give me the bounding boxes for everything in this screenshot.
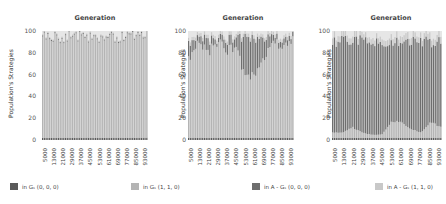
- y-tick: 40: [172, 92, 186, 99]
- x-tick: 85000: [279, 148, 285, 172]
- y-tick: 80: [172, 49, 186, 56]
- chart-panel-3: Generation Population's Strategies 100 8…: [296, 0, 444, 178]
- x-tick: 69000: [115, 148, 121, 172]
- legend-label: in A - Gₛ (0, 0, 0): [264, 184, 310, 190]
- x-tick: 5000: [42, 148, 48, 172]
- plot-area: [42, 31, 148, 140]
- x-tick: 45000: [233, 148, 239, 172]
- legend-label: in Gₛ (0, 0, 0): [22, 184, 59, 190]
- legend-swatch: [252, 183, 260, 190]
- x-tick: 37000: [224, 148, 230, 172]
- legend-label: in A - Gₛ (1, 1, 0): [387, 184, 433, 190]
- y-tick: 80: [316, 49, 330, 56]
- x-tick: 5000: [188, 148, 194, 172]
- x-tick: 29000: [69, 148, 75, 172]
- y-tick: 0: [22, 136, 36, 143]
- legend-swatch: [131, 183, 139, 190]
- x-tick: 93000: [436, 148, 442, 172]
- legend: in Gₛ (0, 0, 0) in Gₛ (1, 1, 0) in A - G…: [0, 183, 446, 197]
- x-tick: 21000: [206, 148, 212, 172]
- y-tick: 100: [22, 27, 36, 34]
- legend-label: in Gₛ (1, 1, 0): [143, 184, 180, 190]
- x-tick: 29000: [360, 148, 366, 172]
- y-tick: 20: [316, 114, 330, 121]
- legend-item: in Gₛ (0, 0, 0): [10, 183, 59, 190]
- y-tick: 80: [22, 49, 36, 56]
- x-tick: 29000: [215, 148, 221, 172]
- chart-title: Generation: [40, 14, 150, 22]
- chart-title: Generation: [336, 14, 446, 22]
- chart-title: Generation: [188, 14, 298, 22]
- x-tick: 85000: [427, 148, 433, 172]
- x-tick: 13000: [341, 148, 347, 172]
- x-tick: 61000: [398, 148, 404, 172]
- y-tick: 40: [316, 92, 330, 99]
- y-tick: 20: [22, 114, 36, 121]
- y-tick: 20: [172, 114, 186, 121]
- x-tick: 45000: [379, 148, 385, 172]
- y-tick: 100: [172, 27, 186, 34]
- x-tick: 53000: [243, 148, 249, 172]
- legend-item: in A - Gₛ (0, 0, 0): [252, 183, 310, 190]
- y-tick: 60: [316, 71, 330, 78]
- y-tick: 100: [316, 27, 330, 34]
- x-tick: 61000: [106, 148, 112, 172]
- x-tick: 13000: [51, 148, 57, 172]
- x-tick: 69000: [261, 148, 267, 172]
- x-tick: 85000: [133, 148, 139, 172]
- x-tick: 77000: [270, 148, 276, 172]
- x-tick: 37000: [370, 148, 376, 172]
- x-tick: 5000: [332, 148, 338, 172]
- x-tick: 61000: [252, 148, 258, 172]
- x-tick: 53000: [389, 148, 395, 172]
- x-tick: 77000: [124, 148, 130, 172]
- chart-panel-2: Generation Population's Strategies 100 8…: [148, 0, 296, 178]
- x-tick: 21000: [60, 148, 66, 172]
- plot-area: [188, 31, 294, 140]
- bars: [188, 31, 294, 140]
- y-tick: 60: [172, 71, 186, 78]
- bars: [332, 31, 442, 140]
- y-tick: 0: [316, 136, 330, 143]
- legend-item: in Gₛ (1, 1, 0): [131, 183, 180, 190]
- chart-panel-1: Generation Population's Strategies 100 8…: [0, 0, 148, 178]
- y-axis-label: Population's Strategies: [7, 34, 14, 134]
- y-tick: 40: [22, 92, 36, 99]
- x-tick: 77000: [417, 148, 423, 172]
- x-tick: 45000: [87, 148, 93, 172]
- y-tick: 60: [22, 71, 36, 78]
- x-tick: 93000: [288, 148, 294, 172]
- legend-swatch: [375, 183, 383, 190]
- plot-area: [332, 31, 442, 140]
- y-tick: 0: [172, 136, 186, 143]
- x-tick: 21000: [351, 148, 357, 172]
- legend-swatch: [10, 183, 18, 190]
- x-tick: 53000: [97, 148, 103, 172]
- x-tick: 69000: [408, 148, 414, 172]
- x-tick: 37000: [78, 148, 84, 172]
- legend-item: in A - Gₛ (1, 1, 0): [375, 183, 433, 190]
- x-tick: 13000: [197, 148, 203, 172]
- bars: [42, 31, 148, 140]
